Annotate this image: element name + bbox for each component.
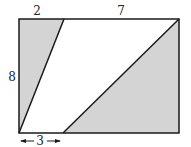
label-left-side: 8 (8, 70, 16, 84)
arrow-right-icon (55, 139, 61, 143)
label-bottom-left: 3 (36, 134, 44, 147)
dimension-arrow-bottom: 3 (20, 134, 61, 147)
label-top-right: 7 (117, 4, 125, 18)
label-top-left: 2 (33, 4, 41, 18)
geometry-figure: 2 7 8 3 (0, 0, 191, 147)
arrow-left-icon (20, 139, 26, 143)
